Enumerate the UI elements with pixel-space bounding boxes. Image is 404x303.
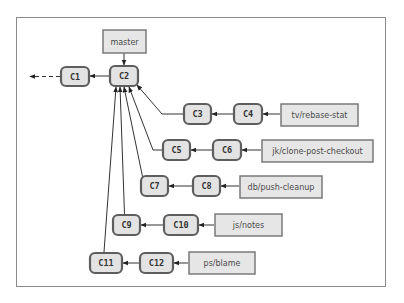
branch-name: js/notes [232, 221, 264, 230]
commit-node-c8: C8 [193, 176, 220, 196]
commit-node-c11: C11 [90, 253, 122, 273]
commit-label: C8 [201, 181, 211, 191]
commit-label: C4 [243, 109, 253, 119]
commit-label: C12 [149, 258, 164, 268]
commit-label: C10 [173, 220, 188, 230]
commit-node-c7: C7 [141, 176, 168, 196]
commit-label: C11 [98, 258, 113, 268]
branch-name: master [110, 38, 139, 47]
commit-node-c1: C1 [61, 67, 89, 86]
branch-label-db-push-cleanup: db/push-cleanup [240, 176, 322, 198]
branch-name: db/push-cleanup [248, 183, 315, 192]
commit-label: C2 [119, 71, 129, 81]
branch-label-js-notes: js/notes [215, 214, 282, 236]
edge-C7-to-C2 [124, 87, 143, 179]
commit-label: C6 [222, 145, 232, 155]
branch-name: ps/blame [204, 259, 241, 268]
commit-node-c6: C6 [213, 140, 241, 160]
branch-name: tv/rebase-stat [292, 111, 348, 120]
commit-label: C3 [192, 109, 202, 119]
commit-label: C1 [70, 72, 80, 82]
edge-C5-to-C2 [129, 87, 162, 150]
commit-label: C9 [121, 220, 131, 230]
commit-node-c9: C9 [113, 215, 140, 235]
nodes: C1C2C3C4C5C6C7C8C9C10C11C12mastertv/reba… [61, 30, 373, 274]
branch-label-jk-clone-post-checkout: jk/clone-post-checkout [262, 140, 373, 162]
branch-name: jk/clone-post-checkout [271, 147, 362, 156]
edge-C3-to-C2 [137, 85, 183, 114]
commit-label: C5 [171, 145, 181, 155]
branch-label-master: master [103, 30, 146, 53]
commit-node-c2: C2 [110, 66, 138, 86]
edge-C9-to-C2 [120, 87, 125, 214]
commit-label: C7 [149, 181, 159, 191]
commit-node-c3: C3 [184, 104, 211, 124]
commit-node-c10: C10 [164, 215, 198, 235]
branch-label-ps-blame: ps/blame [189, 252, 255, 274]
commit-node-c5: C5 [163, 140, 190, 160]
commit-node-c4: C4 [234, 104, 262, 124]
git-branch-diagram: C1C2C3C4C5C6C7C8C9C10C11C12mastertv/reba… [0, 0, 404, 303]
branch-label-tv-rebase-stat: tv/rebase-stat [281, 104, 358, 126]
commit-node-c12: C12 [140, 253, 173, 273]
